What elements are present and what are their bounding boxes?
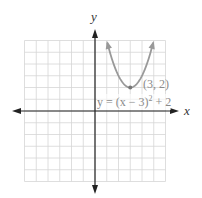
equation-label: y = (x − 3)2 + 2 [97,94,171,110]
vertex-label: (3, 2) [143,77,169,92]
equation-tail: + 2 [153,95,172,109]
equation-main: y = (x − 3) [97,95,149,109]
vertex-point [128,86,132,90]
y-axis-label: y [91,9,97,25]
x-axis-label: x [184,103,190,119]
y-axis-up-arrow-icon [92,29,98,38]
x-axis-right-arrow-icon [170,108,179,114]
x-axis-left-arrow-icon [12,108,21,114]
y-axis-down-arrow-icon [92,185,98,194]
